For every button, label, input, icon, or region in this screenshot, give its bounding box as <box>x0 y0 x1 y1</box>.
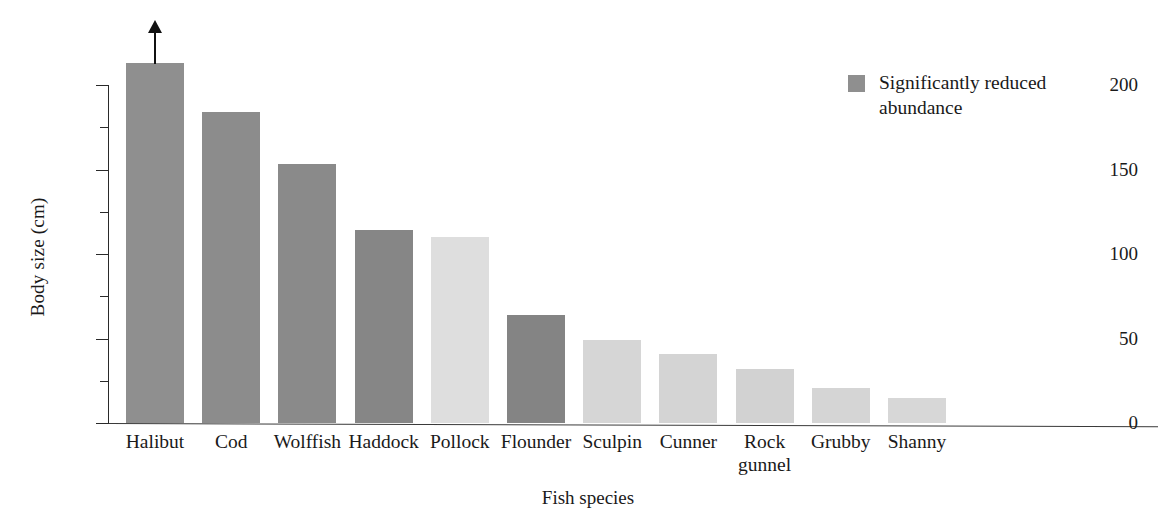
y-axis-title: Body size (cm) <box>27 157 49 357</box>
bar-flounder <box>507 315 565 423</box>
bar-halibut <box>126 63 184 423</box>
bar-cod <box>202 112 260 423</box>
x-axis-title: Fish species <box>0 487 1176 509</box>
up-arrow-shaft <box>154 30 156 64</box>
bar-sculpin <box>583 340 641 423</box>
bar-grubby <box>812 388 870 423</box>
bar-haddock <box>355 230 413 423</box>
bar-cunner <box>659 354 717 423</box>
bar-pollock <box>431 237 489 423</box>
legend: Significantly reduced abundance <box>848 70 1046 120</box>
up-arrow-icon <box>148 20 162 64</box>
fish-body-size-bar-chart: Body size (cm) 050100150200 HalibutCodWo… <box>0 0 1176 531</box>
legend-swatch-significantly-reduced-abundance <box>848 75 865 92</box>
x-axis-tick-labels: HalibutCodWolffishHaddockPollockFlounder… <box>108 430 1158 482</box>
bar-shanny <box>888 398 946 423</box>
x-tick-label-shanny: Shanny <box>857 430 977 453</box>
bar-rock-gunnel <box>736 369 794 423</box>
bar-wolffish <box>278 164 336 423</box>
legend-label-significantly-reduced-abundance: Significantly reduced abundance <box>879 70 1046 120</box>
